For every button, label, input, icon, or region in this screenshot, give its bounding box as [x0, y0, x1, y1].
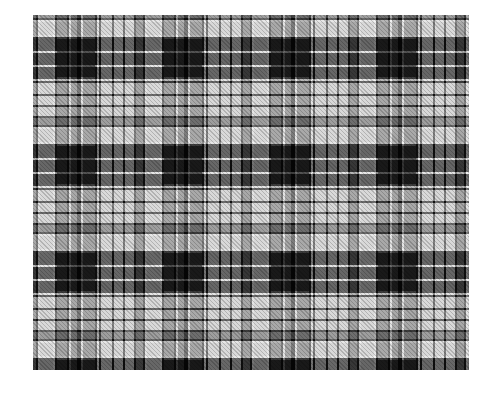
tartan-plaid-swatch [33, 15, 469, 370]
twill-weave-texture [33, 15, 469, 370]
